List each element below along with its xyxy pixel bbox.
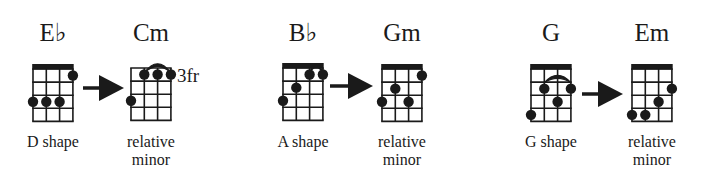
relative-minor-caption: relativeminor (628, 133, 676, 169)
chord-diagram-minor (0, 0, 704, 181)
caption-line: minor (628, 151, 676, 169)
caption-line: relative (628, 133, 676, 151)
finger-dot (640, 110, 650, 120)
chord-relationship-diagram: E♭D shapeCm3frrelativeminorB♭A shapeGmre… (0, 0, 704, 181)
finger-dot (627, 110, 637, 120)
finger-dot (653, 97, 663, 107)
finger-dot (667, 83, 677, 93)
